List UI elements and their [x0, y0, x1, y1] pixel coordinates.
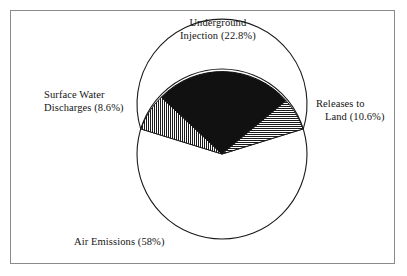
- slice-label-air-emissions-line1: Air Emissions (58%): [74, 235, 165, 248]
- slice-label-surface-water-discharges-line1: Surface Water: [44, 88, 124, 101]
- pie-chart-figure: Underground Injection (22.8%) Surface Wa…: [0, 0, 407, 276]
- slice-label-releases-to-land-line1: Releases to: [316, 97, 385, 110]
- slice-label-releases-to-land: Releases to Land (10.6%): [316, 97, 385, 123]
- slice-label-surface-water-discharges: Surface Water Discharges (8.6%): [44, 88, 124, 114]
- slice-label-underground-injection-line2: Injection (22.8%): [180, 29, 256, 42]
- slice-label-underground-injection: Underground Injection (22.8%): [180, 16, 256, 42]
- slice-label-air-emissions: Air Emissions (58%): [74, 235, 165, 248]
- slice-label-surface-water-discharges-line2: Discharges (8.6%): [44, 101, 124, 114]
- slice-label-releases-to-land-line2: Land (10.6%): [316, 110, 385, 123]
- slice-label-underground-injection-line1: Underground: [180, 16, 256, 29]
